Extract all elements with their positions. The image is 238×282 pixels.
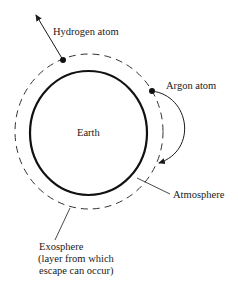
exosphere-leader-line	[55, 208, 70, 240]
argon-atom-dot	[149, 88, 155, 94]
argon-atom-label: Argon atom	[166, 80, 216, 91]
atmospheric-escape-diagram: Hydrogen atom Argon atom Earth Atmospher…	[0, 0, 238, 282]
exosphere-label-line3: escape can occur)	[39, 265, 114, 277]
exosphere-label-line1: Exosphere	[39, 241, 84, 252]
hydrogen-atom-dot	[60, 57, 66, 63]
atmosphere-leader-line	[137, 178, 170, 194]
atmosphere-label: Atmosphere	[173, 189, 225, 200]
earth-label: Earth	[77, 127, 100, 138]
hydrogen-atom-label: Hydrogen atom	[53, 26, 119, 37]
hydrogen-escape-arrow	[36, 15, 63, 60]
exosphere-label-line2: (layer from which	[38, 253, 115, 265]
